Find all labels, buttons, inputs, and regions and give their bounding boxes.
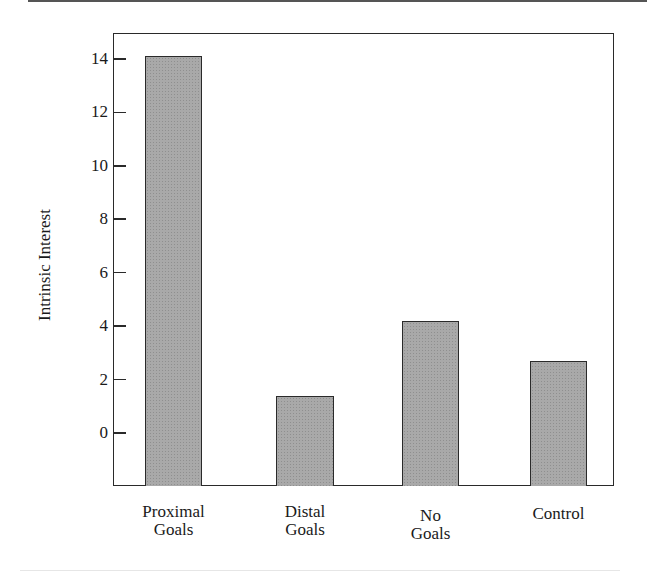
y-tick-label: 10 [78, 157, 108, 174]
y-tick [113, 325, 126, 327]
bottom-rule [20, 570, 620, 571]
x-label-line: Control [499, 505, 619, 523]
y-tick [113, 218, 126, 220]
x-label-line: Goals [245, 521, 365, 539]
x-label-no-goals: NoGoals [371, 507, 491, 543]
x-label-line: Distal [245, 503, 365, 521]
y-tick-label: 6 [78, 264, 108, 281]
bar-proximal-goals [145, 56, 202, 486]
bar-no-goals [402, 321, 459, 486]
x-label-proximal-goals: ProximalGoals [114, 503, 234, 539]
x-label-line: Goals [371, 525, 491, 543]
y-tick [113, 112, 126, 114]
x-label-line: Proximal [114, 503, 234, 521]
x-label-control: Control [499, 505, 619, 523]
y-tick [113, 272, 126, 274]
bar-control [530, 361, 587, 486]
y-tick-label: 4 [78, 317, 108, 334]
y-tick-label: 0 [78, 424, 108, 441]
y-axis-label: Intrinsic Interest [35, 209, 55, 321]
x-label-distal-goals: DistalGoals [245, 503, 365, 539]
y-tick [113, 58, 126, 60]
x-label-line: No [371, 507, 491, 525]
top-rule [28, 0, 647, 2]
y-tick [113, 432, 126, 434]
bar-distal-goals [276, 396, 334, 486]
y-tick [113, 165, 126, 167]
y-tick-label: 8 [78, 210, 108, 227]
x-label-line: Goals [114, 521, 234, 539]
y-tick [113, 379, 126, 381]
y-tick-label: 2 [78, 371, 108, 388]
y-tick-label: 12 [78, 103, 108, 120]
y-tick-label: 14 [78, 50, 108, 67]
